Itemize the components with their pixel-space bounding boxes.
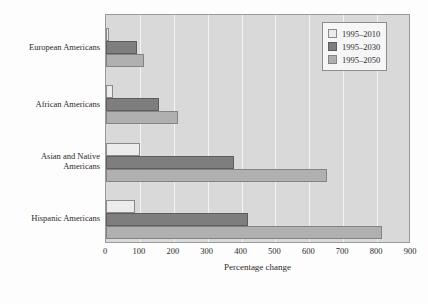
legend-item: 1995–2010 <box>328 27 380 40</box>
legend-item: 1995–2050 <box>328 53 380 66</box>
bar <box>106 41 137 54</box>
x-axis-tick-label: 700 <box>327 246 357 256</box>
bar <box>106 111 178 124</box>
bar <box>106 213 248 226</box>
bar <box>106 156 234 169</box>
gridline <box>140 15 141 242</box>
bar <box>106 226 382 239</box>
y-axis-label: European Americans <box>0 42 100 52</box>
chart-figure: European AmericansAfrican AmericansAsian… <box>0 0 428 304</box>
bar <box>106 85 113 98</box>
x-axis-tick-label: 0 <box>90 246 120 256</box>
bar <box>106 143 140 156</box>
chart-legend: 1995–20101995–20301995–2050 <box>322 22 387 71</box>
bar <box>106 98 159 111</box>
bar <box>106 169 327 182</box>
x-axis-tick-label: 400 <box>226 246 256 256</box>
legend-swatch-icon <box>328 55 337 64</box>
x-axis-title: Percentage change <box>105 262 410 272</box>
x-axis-tick-label: 100 <box>124 246 154 256</box>
x-axis-tick-label: 900 <box>395 246 425 256</box>
legend-item: 1995–2030 <box>328 40 380 53</box>
gridline <box>275 15 276 242</box>
gridline <box>174 15 175 242</box>
y-axis-label: Asian and Native Americans <box>0 151 100 171</box>
legend-label: 1995–2010 <box>342 29 380 39</box>
bar <box>106 200 135 213</box>
gridline <box>208 15 209 242</box>
gridline <box>309 15 310 242</box>
x-axis-tick-label: 200 <box>158 246 188 256</box>
x-axis-tick-label: 600 <box>293 246 323 256</box>
legend-label: 1995–2050 <box>342 55 380 65</box>
y-axis-label: African Americans <box>0 99 100 109</box>
x-axis-tick-label: 500 <box>259 246 289 256</box>
legend-swatch-icon <box>328 42 337 51</box>
bar <box>106 54 144 67</box>
x-axis-tick-label: 300 <box>192 246 222 256</box>
x-axis-tick-label: 800 <box>361 246 391 256</box>
bar <box>106 28 109 41</box>
y-axis-label: Hispanic Americans <box>0 213 100 223</box>
gridline <box>242 15 243 242</box>
legend-swatch-icon <box>328 29 337 38</box>
legend-label: 1995–2030 <box>342 42 380 52</box>
